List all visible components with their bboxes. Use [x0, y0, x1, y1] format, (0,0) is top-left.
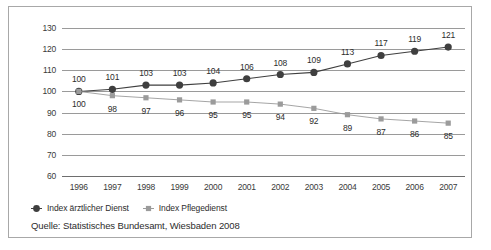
x-tick-2002: 2002 [271, 182, 289, 192]
value-label-s1-1996: 100 [72, 74, 86, 84]
x-tick-1998: 1998 [137, 182, 155, 192]
value-label-s2-2001: 95 [242, 110, 251, 120]
value-label-s1-2000: 104 [206, 66, 220, 76]
marker-s2-1999 [177, 97, 182, 102]
value-label-s1-2003: 109 [307, 55, 321, 65]
plot-area: 60708090100110120130 1996199719981999200… [62, 28, 465, 176]
legend-item-1[interactable]: Index ärztlicher Dienst [31, 203, 129, 213]
value-label-s2-1998: 97 [141, 106, 150, 116]
marker-s2-2001 [244, 99, 249, 104]
marker-s2-2007 [446, 121, 451, 126]
x-tick-1999: 1999 [170, 182, 188, 192]
marker-s2-2000 [211, 99, 216, 104]
y-tick-70: 70 [47, 150, 56, 160]
x-tick-2004: 2004 [338, 182, 356, 192]
series-1 [75, 43, 452, 95]
marker-s2-1996 [76, 89, 81, 94]
marker-s2-2002 [278, 102, 283, 107]
value-label-s2-1996: 100 [72, 99, 86, 109]
marker-s2-2003 [311, 106, 316, 111]
value-label-s2-1999: 96 [175, 108, 184, 118]
source-note: Quelle: Statistisches Bundesamt, Wiesbad… [31, 220, 240, 231]
marker-s1-1997 [109, 86, 116, 93]
series-2 [76, 89, 451, 126]
y-tick-60: 60 [47, 171, 56, 181]
gridline-60 [62, 176, 465, 177]
x-tick-1996: 1996 [70, 182, 88, 192]
marker-s1-2003 [310, 69, 317, 76]
marker-s1-1999 [176, 81, 183, 88]
value-label-s1-1997: 101 [106, 72, 120, 82]
value-label-s1-2007: 121 [441, 30, 455, 40]
value-label-s1-2005: 117 [375, 38, 388, 48]
y-tick-120: 120 [42, 44, 56, 54]
value-label-s2-2003: 92 [309, 116, 318, 126]
value-label-s2-1997: 98 [108, 104, 117, 114]
value-label-s2-2000: 95 [209, 110, 218, 120]
x-tick-2006: 2006 [406, 182, 424, 192]
marker-s2-2004 [345, 112, 350, 117]
chart-frame: 60708090100110120130 1996199719981999200… [8, 6, 472, 238]
value-label-s2-2004: 89 [343, 123, 352, 133]
value-label-s1-1998: 103 [139, 68, 153, 78]
x-tick-1997: 1997 [103, 182, 121, 192]
legend-item-2[interactable]: Index Pflegedienst [143, 203, 227, 213]
value-label-s1-2006: 119 [408, 34, 421, 44]
y-tick-80: 80 [47, 129, 56, 139]
x-tick-2005: 2005 [372, 182, 390, 192]
legend-label-1: Index ärztlicher Dienst [47, 203, 129, 213]
marker-s1-2004 [344, 60, 351, 67]
series-line-1 [79, 47, 448, 91]
marker-s2-2006 [412, 118, 417, 123]
marker-s1-2002 [277, 71, 284, 78]
marker-s1-2007 [445, 43, 452, 50]
marker-s2-1998 [143, 95, 148, 100]
value-label-s2-2002: 94 [276, 112, 285, 122]
series-line-2 [79, 91, 448, 123]
y-tick-130: 130 [42, 23, 56, 33]
marker-s1-2001 [243, 75, 250, 82]
marker-s1-2000 [210, 79, 217, 86]
y-tick-100: 100 [42, 86, 56, 96]
value-label-s2-2007: 85 [444, 131, 453, 141]
x-tick-2007: 2007 [439, 182, 457, 192]
marker-s2-2005 [378, 116, 383, 121]
legend-circle-icon [31, 204, 42, 213]
legend-label-2: Index Pflegedienst [159, 203, 227, 213]
y-tick-90: 90 [47, 108, 56, 118]
value-label-s1-1999: 103 [173, 68, 187, 78]
x-tick-2000: 2000 [204, 182, 222, 192]
value-label-s2-2006: 86 [410, 129, 419, 139]
marker-s1-2006 [411, 48, 418, 55]
marker-s1-2005 [377, 52, 384, 59]
value-label-s1-2001: 106 [240, 62, 254, 72]
value-label-s1-2004: 113 [341, 47, 354, 57]
y-tick-110: 110 [43, 65, 56, 75]
value-label-s1-2002: 108 [273, 58, 287, 68]
marker-s1-1998 [142, 81, 149, 88]
x-tick-2003: 2003 [305, 182, 323, 192]
x-tick-2001: 2001 [238, 182, 256, 192]
chart-legend: Index ärztlicher DienstIndex Pflegediens… [31, 203, 227, 213]
marker-s2-1997 [110, 93, 115, 98]
legend-square-icon [143, 204, 154, 213]
chart-figure: 60708090100110120130 1996199719981999200… [0, 0, 491, 250]
value-label-s2-2005: 87 [377, 127, 386, 137]
series-plot [62, 28, 465, 176]
